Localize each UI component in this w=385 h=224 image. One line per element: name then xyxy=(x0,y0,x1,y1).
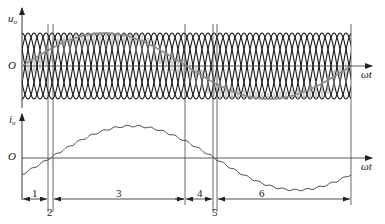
voltage-origin-label: O xyxy=(8,60,16,71)
voltage-axis-label: uo xyxy=(8,13,17,26)
interval-label-4: 4 xyxy=(197,188,203,199)
voltage-subscript: o xyxy=(14,18,18,26)
interval-label-1: 1 xyxy=(32,188,38,199)
current-subscript: o xyxy=(12,119,16,127)
voltage-omega-t-label: ωt xyxy=(361,69,372,80)
current-axis-label: io xyxy=(9,114,16,127)
interval-label-2: 2 xyxy=(47,207,53,218)
voltage-plot xyxy=(17,8,372,108)
current-omega-t-label: ωt xyxy=(361,161,372,172)
current-origin-label: O xyxy=(8,151,16,162)
interval-label-6: 6 xyxy=(259,188,265,199)
interval-label-3: 3 xyxy=(116,188,122,199)
output-voltage-steps xyxy=(22,33,346,100)
waveform-diagram xyxy=(0,0,385,224)
interval-label-5: 5 xyxy=(212,207,218,218)
